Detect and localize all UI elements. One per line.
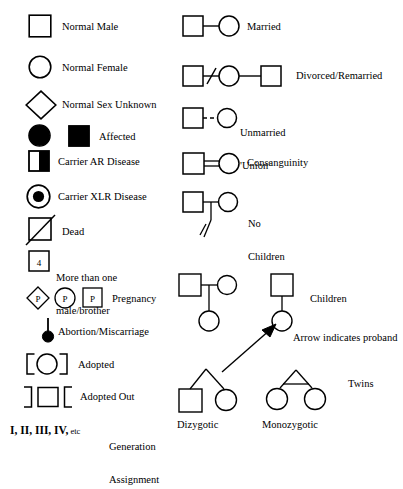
monozygotic-label: Monozygotic bbox=[262, 419, 318, 431]
children-label: Children bbox=[310, 293, 347, 305]
adopted-icon bbox=[25, 352, 69, 376]
unmarried-union-label-line1: Unmarried bbox=[240, 127, 285, 138]
no-children-label: No Children bbox=[248, 196, 285, 284]
svg-text:P: P bbox=[35, 294, 40, 304]
sibship-count-label-line1: More than one bbox=[56, 272, 117, 283]
sibship-count-icon: 4 bbox=[28, 250, 50, 272]
normal-sex-unknown-label: Normal Sex Unknown bbox=[62, 99, 157, 111]
abortion-miscarriage-icon bbox=[40, 317, 56, 343]
dizygotic-twins-icon bbox=[176, 367, 244, 415]
generation-roman-text: I, II, III, IV, bbox=[10, 424, 68, 436]
pregnancy-label: Pregnancy bbox=[112, 293, 156, 305]
pregnancy-circle-icon: P bbox=[54, 287, 76, 309]
proband-label: Arrow indicates proband bbox=[293, 332, 397, 344]
affected-label: Affected bbox=[99, 131, 136, 143]
carrier-xlr-label: Carrier XLR Disease bbox=[58, 191, 147, 203]
generation-assignment-label: Generation Assignment bbox=[109, 419, 159, 489]
generation-roman-numerals: I, II, III, IV, etc bbox=[10, 424, 80, 436]
affected-filled-circle-icon bbox=[28, 124, 51, 147]
married-icon bbox=[182, 14, 240, 38]
unmarried-union-icon bbox=[182, 106, 238, 130]
dead-icon bbox=[26, 215, 58, 247]
twins-label: Twins bbox=[348, 378, 374, 390]
carrier-xlr-icon bbox=[26, 184, 51, 209]
generation-label-line1: Generation bbox=[109, 441, 159, 452]
svg-text:P: P bbox=[90, 294, 95, 304]
married-label: Married bbox=[247, 21, 281, 33]
adopted-out-label: Adopted Out bbox=[80, 391, 135, 403]
normal-female-label: Normal Female bbox=[62, 62, 128, 74]
no-children-label-line2: Children bbox=[248, 251, 285, 262]
adopted-label: Adopted bbox=[78, 359, 114, 371]
normal-female-icon bbox=[28, 55, 52, 79]
carrier-ar-icon bbox=[28, 150, 50, 172]
dizygotic-label: Dizygotic bbox=[177, 419, 218, 431]
consanguinity-label: Consanguinity bbox=[247, 157, 308, 169]
generation-label-line2: Assignment bbox=[109, 474, 159, 485]
no-children-icon bbox=[182, 190, 244, 242]
generation-etc-text: etc bbox=[68, 426, 80, 436]
carrier-ar-label: Carrier AR Disease bbox=[58, 156, 140, 168]
affected-filled-square-icon bbox=[68, 125, 90, 147]
abortion-miscarriage-label: Abortion/Miscarriage bbox=[58, 326, 149, 338]
svg-text:P: P bbox=[62, 294, 67, 304]
pregnancy-diamond-icon: P bbox=[26, 286, 50, 310]
unmarried-union-label: Unmarried 'Union' bbox=[240, 105, 285, 193]
divorced-remarried-label: Divorced/Remarried bbox=[296, 70, 382, 82]
normal-sex-unknown-icon bbox=[25, 90, 57, 120]
svg-text:4: 4 bbox=[37, 258, 42, 268]
consanguinity-icon bbox=[182, 150, 240, 176]
normal-male-icon bbox=[28, 14, 52, 38]
normal-male-label: Normal Male bbox=[62, 21, 118, 33]
no-children-label-line1: No bbox=[248, 218, 285, 229]
pregnancy-square-icon: P bbox=[82, 287, 103, 308]
adopted-out-icon bbox=[22, 385, 74, 409]
divorced-remarried-icon bbox=[182, 63, 292, 89]
monozygotic-twins-icon bbox=[263, 367, 335, 415]
dead-label: Dead bbox=[62, 226, 84, 238]
